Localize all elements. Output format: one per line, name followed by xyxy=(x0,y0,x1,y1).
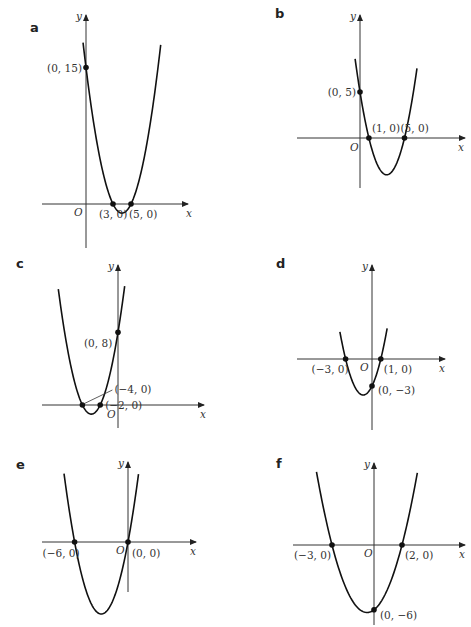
x-axis-label: x xyxy=(190,545,196,557)
y-axis-label: y xyxy=(349,10,357,22)
parabola-sketch-figure: axyO(0, 15)(3, 0)(5, 0)bxyO(0, 5)(1, 0)(… xyxy=(0,0,471,627)
y-axis-label: y xyxy=(117,457,125,469)
point-marker xyxy=(378,356,384,362)
origin-label: O xyxy=(364,547,373,559)
panel-label: e xyxy=(16,457,25,472)
panel-e: exyO(−6, 0)(0, 0) xyxy=(16,457,196,614)
point-label: (1, 0) xyxy=(372,122,400,134)
point-marker xyxy=(128,201,134,207)
x-axis-label: x xyxy=(186,207,192,219)
point-marker xyxy=(83,65,89,71)
origin-label: O xyxy=(74,206,83,218)
point-label: (5, 0) xyxy=(401,122,429,134)
panel-label: a xyxy=(30,20,39,35)
x-axis-label: x xyxy=(459,548,465,560)
point-marker xyxy=(369,383,375,389)
point-label: (−4, 0) xyxy=(114,383,151,395)
panel-label: d xyxy=(276,256,285,271)
panel-c: cxyO(0, 8)(−4, 0)(−2, 0) xyxy=(16,256,206,428)
point-label: (0, −3) xyxy=(378,384,415,396)
point-label: (−6, 0) xyxy=(43,547,80,559)
point-label: (3, 0) xyxy=(99,208,127,220)
panel-b: bxyO(0, 5)(1, 0)(5, 0) xyxy=(275,6,465,188)
y-axis-label: y xyxy=(75,10,83,22)
parabola-curve xyxy=(316,472,417,613)
panel-label: c xyxy=(16,256,24,271)
panel-a: axyO(0, 15)(3, 0)(5, 0) xyxy=(30,10,192,248)
point-label: (2, 0) xyxy=(405,549,433,561)
point-label: (−3, 0) xyxy=(312,363,349,375)
point-label: (5, 0) xyxy=(129,208,157,220)
point-marker xyxy=(72,539,78,545)
point-marker xyxy=(115,329,121,335)
point-label: (0, 0) xyxy=(132,547,160,559)
x-axis-label: x xyxy=(200,408,206,420)
point-marker xyxy=(329,542,335,548)
y-axis-label: y xyxy=(107,260,115,272)
point-marker xyxy=(80,402,86,408)
point-label: (0, 5) xyxy=(328,86,356,98)
x-axis-label: x xyxy=(439,362,445,374)
point-label: (0, 15) xyxy=(47,62,82,74)
y-axis-label: y xyxy=(363,458,371,470)
point-marker xyxy=(402,135,408,141)
point-label: (−3, 0) xyxy=(294,549,331,561)
panel-f: fxyO(−3, 0)(2, 0)(0, −6) xyxy=(276,456,465,625)
point-marker xyxy=(366,135,372,141)
point-marker xyxy=(110,201,116,207)
panel-d: dxyO(−3, 0)(1, 0)(0, −3) xyxy=(276,256,445,430)
origin-label: O xyxy=(116,544,125,556)
parabola-curve xyxy=(83,43,161,213)
point-marker xyxy=(357,89,363,95)
point-label: (0, 8) xyxy=(84,337,112,349)
point-marker xyxy=(399,542,405,548)
point-marker xyxy=(97,402,103,408)
parabola-curve xyxy=(355,59,417,175)
point-marker xyxy=(343,356,349,362)
point-marker xyxy=(125,539,131,545)
origin-label: O xyxy=(360,361,369,373)
point-label: (−2, 0) xyxy=(105,399,142,411)
origin-label: O xyxy=(350,141,359,153)
point-label: (1, 0) xyxy=(384,363,412,375)
point-label: (0, −6) xyxy=(380,609,417,621)
y-axis-label: y xyxy=(361,260,369,272)
panel-label: f xyxy=(276,456,282,471)
x-axis-label: x xyxy=(458,141,464,153)
point-marker xyxy=(371,607,377,613)
panel-label: b xyxy=(275,6,284,21)
